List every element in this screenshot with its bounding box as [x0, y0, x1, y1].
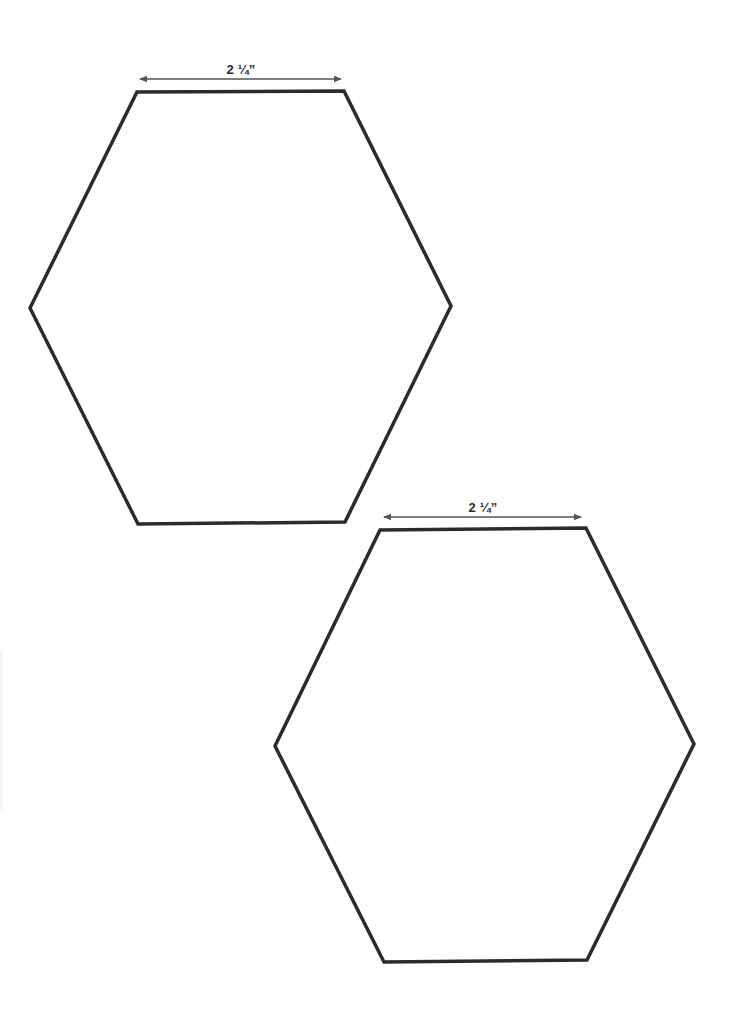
hexagon-2: [275, 517, 694, 962]
hexagon-template-page: 2 ¼” 2 ¼”: [0, 0, 750, 1030]
hexagon-1-outline: [30, 91, 451, 524]
hexagon-2-outline: [275, 528, 694, 962]
hexagon-1: [30, 79, 451, 524]
hexagon-1-dimension-label: 2 ¼”: [227, 62, 256, 77]
hexagon-2-dimension-label: 2 ¼”: [469, 500, 498, 515]
hexagon-canvas: [0, 0, 750, 1030]
